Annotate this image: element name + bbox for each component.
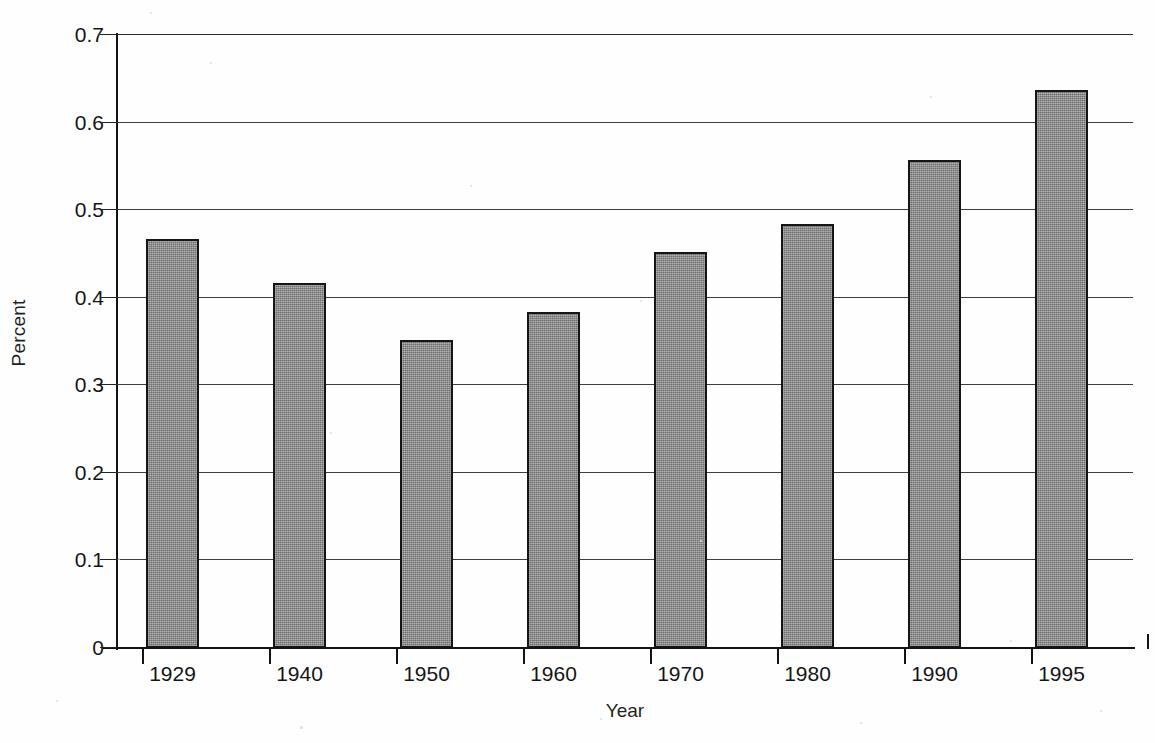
gridline [117, 122, 1133, 123]
bar [654, 252, 707, 648]
bar [1035, 90, 1088, 648]
bar [273, 283, 326, 648]
y-axis-tick [100, 297, 117, 298]
y-axis-tick-label: 0.1 [48, 549, 104, 570]
gridline [117, 559, 1133, 560]
x-axis-tick-label: 1970 [616, 662, 746, 686]
y-axis-title-text: Percent [8, 278, 30, 388]
x-axis-tick-labels: 19291940195019601970198019901995 [117, 662, 1133, 694]
y-axis-tick-labels: 00.10.20.30.40.50.60.7 [48, 0, 104, 743]
gridline [117, 297, 1133, 298]
y-axis-tick-label: 0 [48, 637, 104, 658]
gridline [117, 34, 1133, 35]
y-axis-tick [100, 647, 117, 648]
scan-speckle [300, 726, 303, 729]
bar [400, 340, 453, 648]
y-axis-tick [100, 472, 117, 473]
x-axis-line [103, 647, 1135, 649]
y-axis-tick [100, 122, 117, 123]
gridline [117, 384, 1133, 385]
x-axis-tick-label: 1995 [997, 662, 1127, 686]
x-axis-tick-label: 1929 [108, 662, 238, 686]
y-axis-tick [100, 209, 117, 210]
x-axis-tick-label: 1950 [362, 662, 492, 686]
x-axis-tick-label: 1990 [870, 662, 1000, 686]
y-axis-tick-label: 0.3 [48, 374, 104, 395]
bar [527, 312, 580, 648]
x-axis-tick-label: 1940 [235, 662, 365, 686]
y-axis-tick-label: 0.7 [48, 24, 104, 45]
x-axis-title: Year [117, 700, 1133, 722]
scan-speckle [150, 12, 152, 14]
y-axis-tick [100, 34, 117, 35]
gridline [117, 209, 1133, 210]
y-axis-line [116, 33, 118, 650]
y-axis-tick-label: 0.5 [48, 199, 104, 220]
x-axis-tick-label: 1980 [743, 662, 873, 686]
y-axis-tick [100, 559, 117, 560]
plot-area [117, 35, 1133, 648]
y-axis-tick-label: 0.4 [48, 287, 104, 308]
scan-speckle [860, 722, 862, 724]
bar [146, 239, 199, 648]
y-axis-tick [100, 384, 117, 385]
gridline [117, 472, 1133, 473]
bar [908, 160, 961, 648]
bar-chart-figure: Percent 00.10.20.30.40.50.60.7 192919401… [0, 0, 1155, 743]
x-axis-tick-label: 1960 [489, 662, 619, 686]
bar [781, 224, 834, 648]
y-axis-tick-label: 0.2 [48, 462, 104, 483]
x-axis-end-cap [1147, 634, 1149, 649]
y-axis-tick-label: 0.6 [48, 112, 104, 133]
